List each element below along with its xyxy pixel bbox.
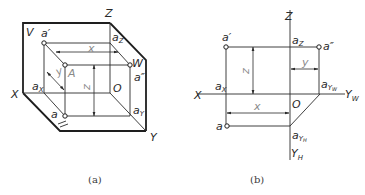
label-ayw: aYW — [321, 78, 338, 92]
point-a-prime — [42, 41, 46, 45]
label-ax-b: aX — [215, 80, 227, 94]
label-a-prime-a: a′ — [41, 27, 51, 40]
label-az-b: aZ — [292, 34, 304, 48]
label-YW: YW — [345, 88, 360, 103]
label-A: A — [67, 67, 76, 80]
label-dim-z-a: z — [81, 83, 94, 90]
label-ax-a: aX — [32, 80, 44, 94]
line-a1-A — [44, 43, 65, 65]
label-dim-y-b: y — [301, 56, 309, 69]
caption-b: (b) — [250, 174, 264, 185]
label-ayh: aYH — [292, 129, 307, 143]
projection-diagrams: V Z X Y O W A a′ a″ a aX aZ aY x y z (a)… — [0, 0, 365, 195]
point-a-prime-b — [224, 45, 228, 49]
label-YH: YH — [291, 147, 304, 162]
point-a-b — [225, 124, 229, 128]
label-ay-a: aY — [133, 104, 145, 118]
label-dim-x-a: x — [87, 42, 95, 55]
label-V: V — [26, 26, 35, 39]
label-X-b: X — [193, 89, 202, 102]
label-Z-a: Z — [104, 7, 113, 20]
line-az-a2 — [110, 43, 130, 65]
point-a — [63, 114, 67, 118]
hatch-mark — [58, 121, 66, 124]
label-Z-b: Z — [284, 10, 293, 23]
label-a-prime-b: a′ — [222, 31, 232, 44]
label-Y-a: Y — [150, 131, 158, 144]
label-a-b: a — [216, 120, 223, 133]
label-a-a: a — [51, 108, 58, 121]
label-O-a: O — [113, 82, 122, 95]
label-O-b: O — [292, 98, 301, 111]
label-W: W — [132, 57, 144, 70]
caption-a: (a) — [88, 174, 102, 185]
point-A — [63, 63, 67, 67]
figure-a-three-plane-projection: V Z X Y O W A a′ a″ a aX aZ aY x y z (a) — [10, 7, 158, 185]
label-az-a: aZ — [112, 31, 124, 45]
hatch-mark — [60, 124, 68, 127]
point-a-double-prime-b — [317, 45, 321, 49]
label-a-double-prime-b: a″ — [323, 40, 335, 53]
label-a-double-prime-a: a″ — [134, 71, 146, 84]
label-dim-z-b: z — [240, 67, 253, 74]
label-dim-x-b: x — [253, 100, 261, 113]
figure-b-unfolded-projection: Z X O YW YH a′ a″ a aX aZ aYW aYH z y x … — [193, 10, 360, 185]
label-X-a: X — [10, 88, 19, 101]
